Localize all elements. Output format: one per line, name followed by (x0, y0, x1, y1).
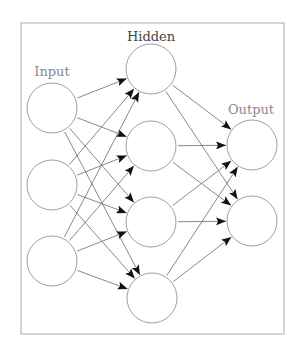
edge-i3-h2 (70, 166, 134, 241)
output-node-o1 (227, 120, 277, 170)
edge-h1-o1 (173, 85, 232, 129)
edge-i1-h2 (77, 118, 127, 137)
layer-label-output: Output (228, 102, 275, 117)
edge-i3-h3 (77, 232, 127, 252)
edge-h4-o2 (173, 237, 231, 282)
hidden-node-h1 (126, 44, 176, 94)
edge-i2-h2 (77, 156, 127, 176)
neurons (27, 44, 277, 323)
input-node-i1 (27, 83, 77, 133)
output-node-o2 (227, 196, 277, 246)
hidden-node-h4 (127, 273, 177, 323)
edge-i2-h1 (70, 89, 135, 165)
edge-i1-h1 (77, 79, 127, 99)
edge-i3-h4 (77, 270, 127, 289)
connections (64, 79, 237, 290)
layer-label-input: Input (34, 64, 70, 79)
input-node-i2 (27, 160, 77, 210)
edge-i2-h4 (70, 205, 135, 278)
input-node-i3 (27, 236, 77, 286)
neural-network-diagram: Input Hidden Output (0, 0, 303, 353)
hidden-node-h2 (126, 121, 176, 171)
hidden-node-h3 (126, 197, 176, 247)
layer-label-hidden: Hidden (127, 29, 176, 44)
